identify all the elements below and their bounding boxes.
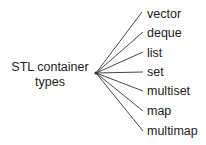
connector-line-list (96, 52, 143, 73)
root-label-line2: types (4, 75, 96, 90)
connector-line-set (96, 72, 143, 73)
leaf-multiset: multiset (147, 84, 190, 98)
stl-container-diagram: STL container types vector deque list se… (0, 0, 206, 145)
connector-line-map (96, 73, 143, 111)
leaf-multimap: multimap (147, 124, 198, 138)
root-label-line1: STL container (4, 60, 96, 75)
leaf-list: list (147, 46, 162, 60)
connector-line-deque (96, 32, 143, 73)
leaf-deque: deque (147, 26, 182, 40)
leaf-map: map (147, 104, 171, 118)
root-node-label: STL container types (4, 60, 96, 90)
leaf-set: set (147, 65, 164, 79)
leaf-vector: vector (147, 7, 181, 21)
connector-line-vector (96, 12, 142, 73)
